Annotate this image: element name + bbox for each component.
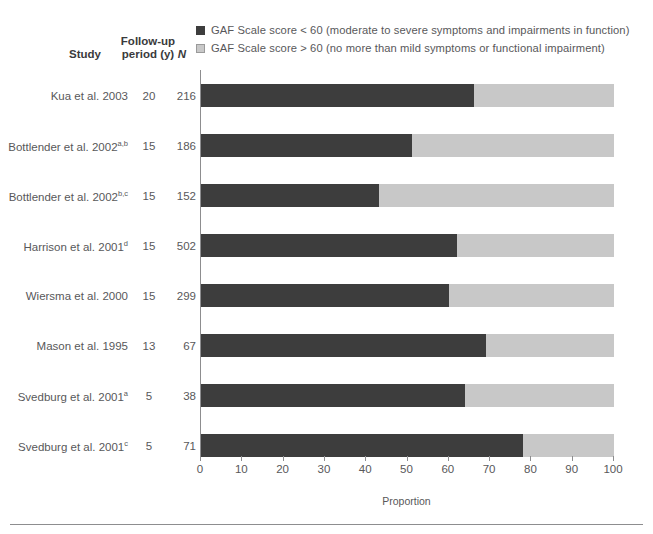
row-study-label: Mason et al. 1995 xyxy=(0,340,132,352)
row-follow-up-value: 5 xyxy=(132,390,166,402)
legend-swatch-dark-icon xyxy=(196,26,205,35)
x-axis-tick-label: 100 xyxy=(593,463,633,475)
row-follow-up-value: 15 xyxy=(132,290,166,302)
x-axis-tick xyxy=(530,456,531,461)
column-headers: Study Follow-up period (y) N xyxy=(0,32,196,72)
x-axis-tick-label: 40 xyxy=(345,463,385,475)
table-row: Svedburg et al. 2001c571 xyxy=(0,434,196,457)
x-axis-title: Proportion xyxy=(200,495,613,507)
bar-segment-high-gaf xyxy=(379,184,614,207)
row-n-value: 299 xyxy=(166,290,196,302)
x-axis-tick xyxy=(283,456,284,461)
bar-segment-low-gaf xyxy=(201,84,474,107)
table-row: Bottlender et al. 2002b,c15152 xyxy=(0,184,196,207)
x-axis-tick xyxy=(613,456,614,461)
table-row: Svedburg et al. 2001a538 xyxy=(0,384,196,407)
legend-item-dark: GAF Scale score < 60 (moderate to severe… xyxy=(196,24,630,36)
row-n-value: 67 xyxy=(166,340,196,352)
row-study-label: Harrison et al. 2001d xyxy=(0,239,132,253)
table-row: Bottlender et al. 2002a,b15186 xyxy=(0,134,196,157)
row-study-label: Kua et al. 2003 xyxy=(0,90,132,102)
legend-item-light: GAF Scale score > 60 (no more than mild … xyxy=(196,42,630,54)
row-follow-up-value: 20 xyxy=(132,90,166,102)
row-n-value: 186 xyxy=(166,140,196,152)
table-row: Kua et al. 200320216 xyxy=(0,84,196,107)
row-n-value: 216 xyxy=(166,90,196,102)
header-n: N xyxy=(172,48,192,61)
header-follow-up-line1: Follow-up xyxy=(118,35,178,48)
bar-segment-high-gaf xyxy=(412,134,614,157)
x-axis-tick-label: 50 xyxy=(387,463,427,475)
row-n-value: 152 xyxy=(166,190,196,202)
row-n-value: 38 xyxy=(166,390,196,402)
table-row: Harrison et al. 2001d15502 xyxy=(0,234,196,257)
row-study-label: Svedburg et al. 2001c xyxy=(0,439,132,453)
x-axis-tick-label: 80 xyxy=(510,463,550,475)
x-axis-tick xyxy=(448,456,449,461)
plot-area: 0102030405060708090100 Proportion xyxy=(200,70,613,455)
header-study: Study xyxy=(52,48,118,61)
x-axis-tick-label: 90 xyxy=(552,463,592,475)
table-row: Wiersma et al. 200015299 xyxy=(0,284,196,307)
x-axis-tick-label: 20 xyxy=(263,463,303,475)
bar-segment-high-gaf xyxy=(457,234,614,257)
header-follow-up-period: Follow-up period (y) xyxy=(118,35,178,60)
bar-segment-low-gaf xyxy=(201,134,412,157)
bar-segment-low-gaf xyxy=(201,434,523,457)
bar-segment-low-gaf xyxy=(201,234,457,257)
legend-label-light: GAF Scale score > 60 (no more than mild … xyxy=(211,42,605,54)
bar-segment-high-gaf xyxy=(449,284,614,307)
bar-segment-low-gaf xyxy=(201,384,465,407)
x-axis-tick-label: 0 xyxy=(180,463,220,475)
x-axis-tick-label: 30 xyxy=(304,463,344,475)
x-axis-tick xyxy=(200,456,201,461)
row-n-value: 71 xyxy=(166,440,196,452)
x-axis-tick-label: 60 xyxy=(428,463,468,475)
legend-label-dark: GAF Scale score < 60 (moderate to severe… xyxy=(211,24,630,36)
bar-segment-high-gaf xyxy=(465,384,614,407)
legend-swatch-light-icon xyxy=(196,44,205,53)
row-n-value: 502 xyxy=(166,240,196,252)
bar-segment-high-gaf xyxy=(523,434,614,457)
x-axis-tick xyxy=(489,456,490,461)
row-study-label: Bottlender et al. 2002a,b xyxy=(0,139,132,153)
table-row: Mason et al. 19951367 xyxy=(0,334,196,357)
x-axis-tick-label: 10 xyxy=(221,463,261,475)
row-follow-up-value: 15 xyxy=(132,140,166,152)
x-axis-tick xyxy=(365,456,366,461)
x-axis-tick xyxy=(241,456,242,461)
row-follow-up-value: 5 xyxy=(132,440,166,452)
chart-legend: GAF Scale score < 60 (moderate to severe… xyxy=(196,24,630,54)
bar-segment-high-gaf xyxy=(474,84,614,107)
header-follow-up-line2: period (y) xyxy=(118,48,178,61)
row-study-label: Svedburg et al. 2001a xyxy=(0,389,132,403)
bar-segment-low-gaf xyxy=(201,334,486,357)
x-axis-tick xyxy=(407,456,408,461)
row-study-label: Wiersma et al. 2000 xyxy=(0,290,132,302)
x-axis-tick xyxy=(572,456,573,461)
row-follow-up-value: 15 xyxy=(132,190,166,202)
bar-segment-high-gaf xyxy=(486,334,614,357)
bar-segment-low-gaf xyxy=(201,184,379,207)
bottom-divider xyxy=(10,524,643,525)
x-axis-tick-label: 70 xyxy=(469,463,509,475)
x-axis-tick xyxy=(324,456,325,461)
bar-segment-low-gaf xyxy=(201,284,449,307)
row-follow-up-value: 15 xyxy=(132,240,166,252)
row-follow-up-value: 13 xyxy=(132,340,166,352)
row-study-label: Bottlender et al. 2002b,c xyxy=(0,189,132,203)
